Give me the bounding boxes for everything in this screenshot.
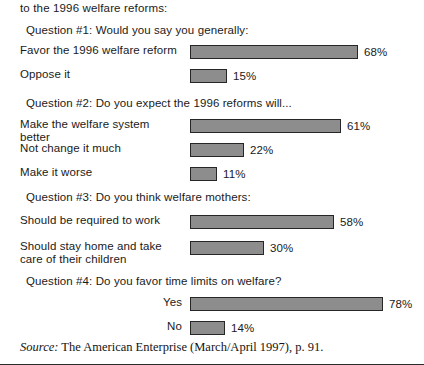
survey-results-figure: to the 1996 welfare reforms: Question #1… <box>0 0 424 365</box>
bar-row: Should be required to work58% <box>0 214 424 234</box>
source-note: Source: The American Enterprise (March/A… <box>20 340 323 355</box>
bar-row: Should stay home and take care of their … <box>0 240 424 260</box>
bar-value-label: 11% <box>223 167 245 181</box>
bar <box>190 297 383 311</box>
bar-row: Make the welfare system better61% <box>0 118 424 138</box>
bar-value-label: 14% <box>231 321 254 335</box>
question-heading: Question #4: Do you favor time limits on… <box>26 275 281 287</box>
bar <box>190 69 227 83</box>
bar-row-label: Make it worse <box>20 166 182 179</box>
bar <box>190 241 264 255</box>
bar-value-label: 61% <box>347 119 370 133</box>
bar-value-label: 68% <box>364 45 387 59</box>
bar-row-label: Should be required to work <box>20 214 182 227</box>
bar-row: Make it worse11% <box>0 166 424 186</box>
bar <box>190 143 244 157</box>
bar-value-label: 15% <box>233 69 256 83</box>
bar-row-label: Should stay home and take care of their … <box>20 240 182 265</box>
bar-row-label: Favor the 1996 welfare reform <box>20 44 182 57</box>
bar-row-label: No <box>20 320 182 333</box>
bar-value-label: 58% <box>340 215 363 229</box>
intro-text: to the 1996 welfare reforms: <box>20 2 167 14</box>
bar <box>190 321 225 335</box>
bar-row: Yes78% <box>0 296 424 316</box>
bar <box>190 45 358 59</box>
bar-row: Favor the 1996 welfare reform68% <box>0 44 424 64</box>
question-heading: Question #1: Would you say you generally… <box>26 24 249 36</box>
bar-value-label: 22% <box>250 143 273 157</box>
question-heading: Question #2: Do you expect the 1996 refo… <box>26 97 292 109</box>
bar-row: Oppose it15% <box>0 68 424 88</box>
source-text: The American Enterprise (March/April 199… <box>61 340 323 354</box>
bar-row-label: Yes <box>20 296 182 309</box>
bar-value-label: 78% <box>389 297 412 311</box>
bar-row: Not change it much22% <box>0 142 424 162</box>
bar-row-label: Make the welfare system better <box>20 118 182 143</box>
bar-row-label: Oppose it <box>20 68 182 81</box>
bar <box>190 215 334 229</box>
source-label: Source: <box>20 340 58 354</box>
bar-row-label: Not change it much <box>20 142 182 155</box>
bar-row: No14% <box>0 320 424 340</box>
bar <box>190 167 217 181</box>
bar <box>190 119 341 133</box>
question-heading: Question #3: Do you think welfare mother… <box>26 191 251 203</box>
bar-value-label: 30% <box>270 241 293 255</box>
